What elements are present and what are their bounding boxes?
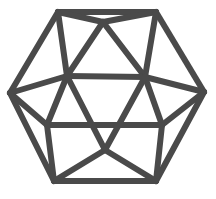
edge-M2-N2 xyxy=(145,77,162,125)
edge-Bo-C xyxy=(54,150,105,181)
cuboctahedron-wireframe xyxy=(0,0,216,199)
cuboctahedron-figure xyxy=(0,0,216,199)
edge-Bo-D xyxy=(105,150,156,181)
edge-T-M1 xyxy=(67,22,103,76)
edge-M1-M2 xyxy=(67,76,145,77)
edge-A-M1 xyxy=(58,12,67,76)
edge-T-M2 xyxy=(103,22,145,77)
edge-M2-Bo xyxy=(105,77,145,150)
edge-B-M2 xyxy=(145,12,156,77)
edge-M1-Bo xyxy=(67,76,105,150)
